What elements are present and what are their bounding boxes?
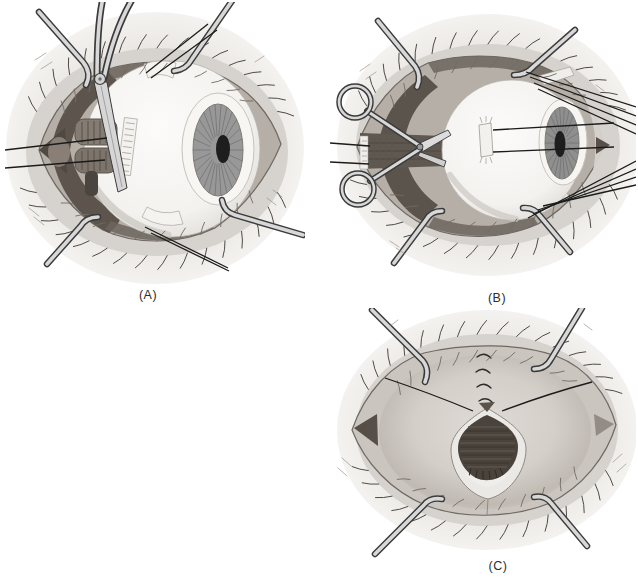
pupil bbox=[555, 131, 566, 157]
panel-a-illustration bbox=[5, 2, 305, 284]
figure-canvas: (A) (B) (C) bbox=[0, 0, 638, 583]
panel-b-illustration bbox=[330, 5, 636, 285]
pupil bbox=[216, 135, 230, 163]
panel-b-label: (B) bbox=[488, 291, 506, 305]
inferior-muscle-shadow bbox=[85, 171, 98, 196]
panel-a-label: (A) bbox=[139, 288, 157, 302]
panel-c-illustration bbox=[330, 308, 636, 566]
panel-c-label: (C) bbox=[489, 559, 508, 573]
